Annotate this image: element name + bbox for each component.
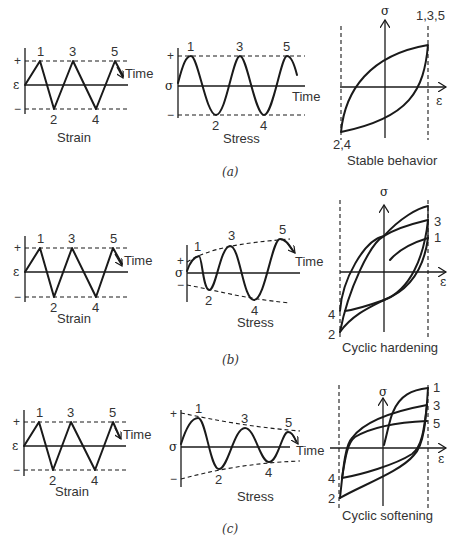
point-label: 1 — [37, 231, 44, 246]
point-label: 4 — [265, 465, 272, 480]
strain-title: Strain — [55, 484, 89, 499]
point-label: 1 — [194, 239, 201, 254]
strain-plot-c: + ε − 1 2 3 4 5 Time Strain — [12, 405, 151, 499]
stress-minus-label: − — [167, 108, 174, 122]
hysteresis-plot-c: σ ε 1 3 5 4 2 Cyclic softening — [328, 380, 446, 523]
stress-title: Stress — [237, 489, 274, 504]
point-label: 4 — [91, 473, 98, 488]
point-label: 5 — [109, 405, 116, 420]
strain-plot-b: + ε − 1 2 3 4 5 Time Strain — [13, 231, 152, 326]
point-label: 3 — [69, 44, 76, 59]
strain-axis-symbol: ε — [13, 78, 19, 92]
stress-minus-label: − — [177, 278, 184, 292]
epsilon-axis-label: ε — [436, 94, 442, 108]
point-label: 2,4 — [333, 137, 351, 152]
epsilon-axis-label: ε — [440, 275, 446, 289]
hysteresis-title: Cyclic softening — [342, 508, 433, 523]
point-label: 3 — [433, 398, 440, 413]
point-label: 2 — [215, 472, 222, 487]
stress-title: Stress — [223, 131, 260, 146]
strain-title: Strain — [57, 311, 91, 326]
point-label: 4 — [260, 118, 267, 133]
time-label: Time — [125, 66, 153, 81]
time-label: Time — [124, 253, 152, 268]
point-label: 1 — [36, 405, 43, 420]
stress-axis-symbol: σ — [169, 440, 177, 454]
hysteresis-title: Cyclic hardening — [342, 340, 438, 355]
point-label: 4 — [92, 300, 99, 315]
row-b: + ε − 1 2 3 4 5 Time Strain + σ − 1 2 3 … — [13, 185, 446, 367]
stress-title: Stress — [237, 315, 274, 330]
strain-minus-label: − — [13, 463, 20, 477]
stress-plus-label: + — [167, 49, 174, 63]
strain-plus-label: + — [14, 54, 21, 68]
point-label: 4 — [328, 307, 335, 322]
point-label: 3 — [241, 411, 248, 426]
point-label: 2 — [328, 327, 335, 342]
point-label: 1,3,5 — [416, 8, 445, 23]
strain-plus-label: + — [14, 241, 21, 255]
point-label: 2 — [205, 293, 212, 308]
sigma-axis-label: σ — [381, 4, 389, 18]
point-label: 1 — [434, 230, 441, 245]
point-label: 3 — [68, 231, 75, 246]
point-label: 5 — [285, 415, 292, 430]
stress-plot-b: + σ − 1 2 3 4 5 Time Stress — [175, 222, 323, 330]
epsilon-axis-label: ε — [438, 452, 444, 466]
point-label: 4 — [92, 112, 99, 127]
row-c: + ε − 1 2 3 4 5 Time Strain + σ − 1 2 3 … — [12, 380, 446, 536]
point-label: 5 — [111, 44, 118, 59]
caption-c: (c) — [222, 522, 238, 536]
hysteresis-plot-b: σ ε 3 1 4 2 Cyclic hardening — [328, 185, 446, 355]
point-label: 3 — [228, 228, 235, 243]
strain-minus-label: − — [14, 290, 21, 304]
point-label: 2 — [328, 491, 335, 506]
point-label: 5 — [283, 39, 290, 54]
point-label: 1 — [195, 401, 202, 416]
time-label: Time — [292, 89, 320, 104]
hysteresis-title: Stable behavior — [347, 153, 438, 168]
time-label: Time — [296, 443, 324, 458]
point-label: 2 — [212, 118, 219, 133]
strain-axis-symbol: ε — [13, 265, 19, 279]
point-label: 1 — [37, 44, 44, 59]
caption-b: (b) — [222, 353, 239, 367]
point-label: 1 — [433, 380, 440, 395]
row-a: + ε − 1 2 3 4 5 Time Strain + σ − 1 2 3 … — [13, 4, 446, 179]
sigma-axis-label: σ — [380, 185, 388, 199]
sigma-axis-label: σ — [379, 385, 387, 399]
strain-title: Strain — [57, 130, 91, 145]
stress-plus-label: + — [170, 407, 177, 421]
stress-axis-symbol: σ — [165, 79, 173, 93]
point-label: 3 — [67, 405, 74, 420]
point-label: 3 — [236, 39, 243, 54]
stress-minus-label: − — [170, 472, 177, 486]
point-label: 5 — [433, 416, 440, 431]
point-label: 1 — [187, 39, 194, 54]
time-label: Time — [295, 254, 323, 269]
strain-axis-symbol: ε — [12, 439, 18, 453]
hysteresis-plot-a: σ ε 1,3,5 2,4 Stable behavior — [333, 4, 446, 168]
point-label: 5 — [110, 231, 117, 246]
strain-minus-label: − — [14, 102, 21, 116]
point-label: 3 — [434, 214, 441, 229]
time-label: Time — [123, 427, 151, 442]
stress-plot-c: + σ − 1 2 3 4 5 Time Stress — [169, 401, 324, 504]
point-label: 5 — [279, 222, 286, 237]
strain-plus-label: + — [13, 415, 20, 429]
stress-plot-a: + σ − 1 2 3 4 5 Time Stress — [165, 39, 320, 146]
caption-a: (a) — [222, 165, 239, 179]
strain-plot-a: + ε − 1 2 3 4 5 Time Strain — [13, 44, 153, 145]
cyclic-behavior-figure: + ε − 1 2 3 4 5 Time Strain + σ − 1 2 3 … — [0, 0, 459, 544]
point-label: 4 — [328, 471, 335, 486]
point-label: 2 — [50, 112, 57, 127]
